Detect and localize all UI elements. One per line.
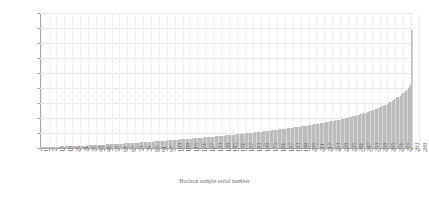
- y-tick-mark: [37, 13, 40, 14]
- x-tick-label: 289: [422, 143, 428, 152]
- x-axis-ticks: 1713192531374349556167737985919710310911…: [40, 149, 413, 179]
- plot-area: [40, 13, 413, 148]
- x-tick-mark: [348, 149, 349, 151]
- y-tick-mark: [37, 118, 40, 119]
- x-tick-mark: [206, 149, 207, 151]
- y-tick-mark: [37, 58, 40, 59]
- y-tick-mark: [37, 43, 40, 44]
- x-tick-mark: [80, 149, 81, 151]
- y-tick-mark: [37, 73, 40, 74]
- x-tick-mark: [214, 149, 215, 151]
- x-tick-mark: [340, 149, 341, 151]
- chart-container: Lower limit of critical differential pre…: [0, 0, 429, 199]
- x-tick-mark: [222, 149, 223, 151]
- x-tick-mark: [88, 149, 89, 151]
- x-tick-mark: [285, 149, 286, 151]
- bar: [411, 30, 412, 149]
- y-tick-mark: [37, 28, 40, 29]
- x-tick-mark: [411, 149, 412, 151]
- x-tick-mark: [403, 149, 404, 151]
- x-axis-title: Horizon sample serial number: [0, 178, 429, 184]
- x-tick-mark: [143, 149, 144, 151]
- x-tick-mark: [277, 149, 278, 151]
- y-tick-mark: [37, 88, 40, 89]
- x-tick-mark: [151, 149, 152, 151]
- y-tick-mark: [37, 103, 40, 104]
- y-tick-mark: [37, 133, 40, 134]
- x-tick-mark: [419, 149, 420, 151]
- gridline-vertical: [419, 13, 420, 148]
- bar-series: [40, 13, 413, 148]
